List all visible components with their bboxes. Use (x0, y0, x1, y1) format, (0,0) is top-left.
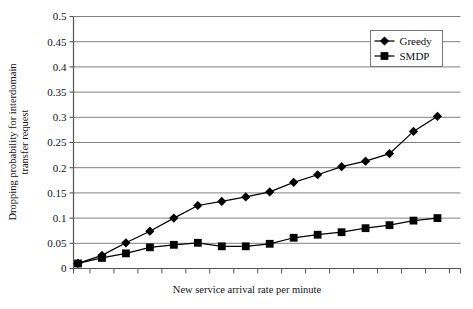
legend: GreedySMDP (371, 31, 443, 67)
data-point-marker (313, 170, 322, 179)
data-point-marker (146, 243, 154, 251)
data-point-marker (338, 228, 346, 236)
y-tick-label: 0.35 (47, 86, 67, 98)
data-point-marker (217, 197, 226, 206)
chart-canvas: 00.050.10.150.20.250.30.350.40.450.5New … (0, 0, 473, 309)
data-point-marker (241, 192, 250, 201)
y-tick-label: 0.45 (47, 36, 67, 48)
data-point-marker (314, 231, 322, 239)
x-axis-ticks (74, 269, 461, 274)
y-tick-label: 0.1 (53, 212, 67, 224)
data-point-marker (265, 187, 274, 196)
data-point-marker (145, 227, 154, 236)
data-point-marker (361, 157, 370, 166)
y-tick-label: 0.15 (47, 187, 67, 199)
chart-page: 00.050.10.150.20.250.30.350.40.450.5New … (0, 0, 473, 309)
data-point-marker (122, 249, 130, 257)
data-point-marker (289, 178, 298, 187)
legend-label: Greedy (400, 35, 433, 47)
y-tick-label: 0.4 (53, 61, 67, 73)
y-axis-title-line2: transfer request (19, 109, 30, 174)
data-point-marker (337, 162, 346, 171)
data-point-marker (194, 239, 202, 247)
data-point-marker (386, 221, 394, 229)
x-axis-title: New service arrival rate per minute (173, 284, 322, 295)
data-point-marker (266, 240, 274, 248)
y-tick-label: 0.25 (47, 136, 67, 148)
data-point-marker (98, 254, 106, 262)
legend-marker-square-icon (381, 52, 389, 60)
data-point-marker (433, 112, 442, 121)
data-point-marker (170, 241, 178, 249)
data-point-marker (290, 234, 298, 242)
data-point-marker (362, 224, 370, 232)
data-point-marker (121, 238, 130, 247)
legend-label: SMDP (400, 50, 430, 62)
y-tick-label: 0.05 (47, 237, 67, 249)
series-line (78, 116, 437, 263)
y-tick-label: 0 (61, 262, 67, 274)
data-point-marker (169, 214, 178, 223)
data-point-marker (193, 201, 202, 210)
y-tick-label: 0.2 (53, 162, 67, 174)
data-point-marker (74, 260, 82, 268)
y-tick-label: 0.3 (53, 111, 67, 123)
y-axis-ticks: 00.050.10.150.20.250.30.350.40.450.5 (47, 10, 73, 274)
data-point-marker (242, 242, 250, 250)
data-point-marker (410, 217, 418, 225)
series-line (78, 218, 437, 263)
data-point-marker (434, 214, 442, 222)
data-point-marker (218, 242, 226, 250)
y-tick-label: 0.5 (53, 10, 67, 22)
y-axis-title-line1: Dropping probability for interdomain (7, 63, 18, 221)
